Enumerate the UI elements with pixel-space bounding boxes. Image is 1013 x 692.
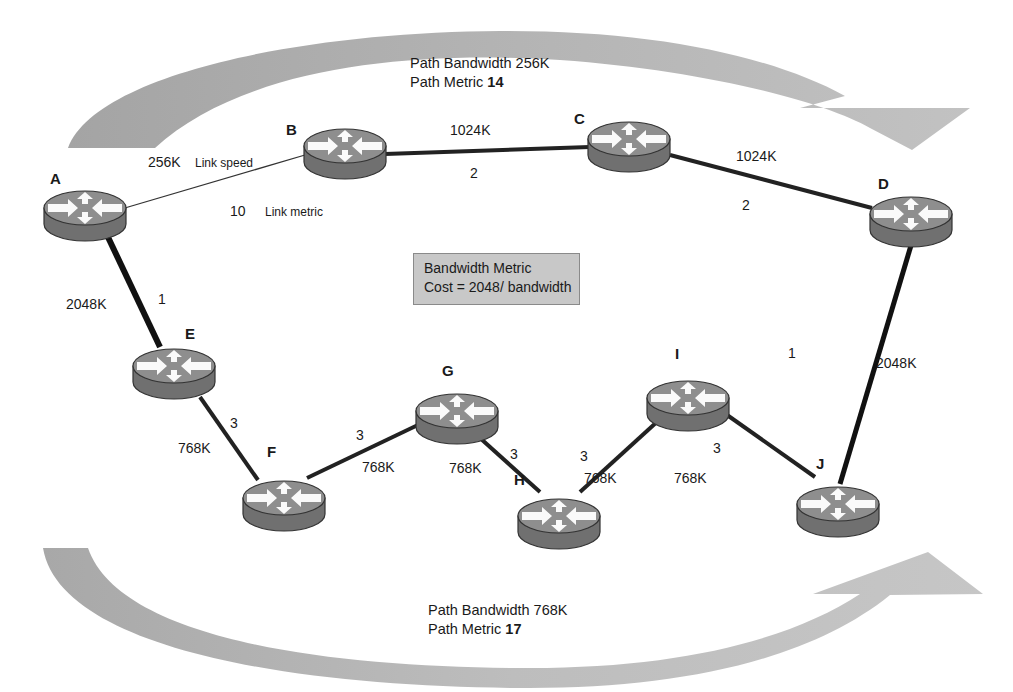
router-e-icon <box>131 340 217 400</box>
node-label-j: J <box>816 455 824 472</box>
link-h-i-metric: 3 <box>580 448 588 464</box>
bottom-path-metric-value: 17 <box>505 621 521 637</box>
bottom-path-summary: Path Bandwidth 768K Path Metric 17 <box>428 601 567 639</box>
link-d-j-speed: 2048K <box>876 355 916 371</box>
link-g-h-speed: 768K <box>449 460 482 476</box>
node-label-c: C <box>574 110 585 127</box>
node-label-e: E <box>185 325 195 342</box>
top-path-summary: Path Bandwidth 256K Path Metric 14 <box>410 54 549 92</box>
node-label-a: A <box>50 170 61 187</box>
link-g-h-metric: 3 <box>510 446 518 462</box>
link-a-e-speed: 2048K <box>66 296 106 312</box>
top-path-metric-value: 14 <box>487 74 503 90</box>
router-d-icon <box>868 188 954 248</box>
link-c-d-metric: 2 <box>742 197 750 213</box>
link-speed-annotation: Link speed <box>195 156 253 170</box>
node-label-f: F <box>267 443 276 460</box>
link-e-f-speed: 768K <box>178 440 211 456</box>
bandwidth-metric-legend: Bandwidth Metric Cost = 2048/ bandwidth <box>413 253 580 305</box>
link-a-e <box>107 235 160 347</box>
router-f-icon <box>241 472 327 532</box>
link-e-f-metric: 3 <box>230 415 238 431</box>
link-metric-annotation: Link metric <box>265 205 323 219</box>
node-label-g: G <box>442 362 454 379</box>
top-path-metric: Path Metric 14 <box>410 73 549 92</box>
link-b-c-metric: 2 <box>470 165 478 181</box>
node-label-i: I <box>675 345 679 362</box>
link-a-b-speed: 256K <box>148 154 181 170</box>
router-h-icon <box>516 490 602 550</box>
link-a-b-metric: 10 <box>230 203 246 219</box>
link-a-e-metric: 1 <box>158 291 166 307</box>
top-path-bandwidth: Path Bandwidth 256K <box>410 54 549 73</box>
link-c-d-speed: 1024K <box>736 148 776 164</box>
node-label-h: H <box>514 471 525 488</box>
link-b-c-speed: 1024K <box>450 122 490 138</box>
node-label-d: D <box>878 175 889 192</box>
router-i-icon <box>645 372 731 432</box>
legend-title: Bandwidth Metric <box>424 259 579 278</box>
link-i-j-metric: 3 <box>713 440 721 456</box>
legend-formula: Cost = 2048/ bandwidth <box>424 278 579 297</box>
router-b-icon <box>302 120 388 180</box>
router-c-icon <box>586 113 672 173</box>
router-j-icon <box>795 478 881 538</box>
bottom-path-bandwidth: Path Bandwidth 768K <box>428 601 567 620</box>
link-d-j-metric: 1 <box>788 345 796 361</box>
link-f-g-speed: 768K <box>362 459 395 475</box>
bottom-path-metric: Path Metric 17 <box>428 620 567 639</box>
link-f-g-metric: 3 <box>356 427 364 443</box>
link-b-c <box>385 147 590 154</box>
router-a-icon <box>42 182 128 242</box>
node-label-b: B <box>286 121 297 138</box>
link-i-j-speed: 768K <box>674 470 707 486</box>
router-g-icon <box>414 385 500 445</box>
link-i-j <box>720 410 815 477</box>
link-e-f <box>200 397 258 480</box>
link-h-i-speed: 768K <box>584 470 617 486</box>
